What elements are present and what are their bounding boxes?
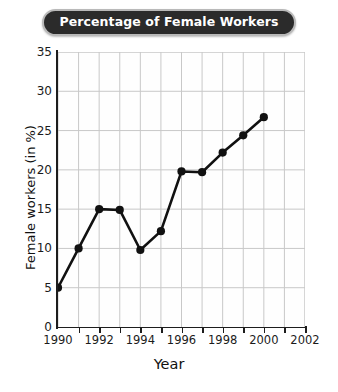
x-axis-tick-mark [182,327,184,333]
data-point [157,227,165,235]
x-axis-tick-mark [223,327,225,333]
x-axis-tick-mark [243,327,245,333]
x-axis-tick-mark [202,327,204,333]
x-tick-label: 1992 [85,333,114,347]
x-tick-label: 1994 [126,333,155,347]
data-point [74,244,82,252]
x-tick-label: 1996 [167,333,196,347]
x-axis-tick-mark [284,327,286,333]
x-axis-tick-mark [120,327,122,333]
x-axis-tick-mark [79,327,81,333]
x-tick-label: 1998 [208,333,237,347]
data-point [136,246,144,254]
data-point [95,205,103,213]
y-axis-title: Female workers (in %) [23,88,38,308]
plot-area [58,52,305,327]
data-point [239,131,247,139]
x-axis-tick-mark [305,327,307,333]
x-tick-label: 2002 [290,333,319,347]
x-axis-title: Year [0,356,338,372]
data-point [177,167,185,175]
y-tick-label: 35 [6,45,52,59]
data-series-line [58,52,305,327]
x-tick-label: 2000 [249,333,278,347]
data-point [198,168,206,176]
x-axis-tick-mark [99,327,101,333]
data-point [219,148,227,156]
x-axis-tick-mark [140,327,142,333]
data-point [58,284,62,292]
x-tick-label: 1990 [43,333,72,347]
y-tick-label: 0 [6,320,52,334]
data-point [260,113,268,121]
chart-title: Percentage of Female Workers [42,9,295,36]
x-axis-tick-mark [161,327,163,333]
data-point [116,206,124,214]
x-axis-tick-mark [264,327,266,333]
